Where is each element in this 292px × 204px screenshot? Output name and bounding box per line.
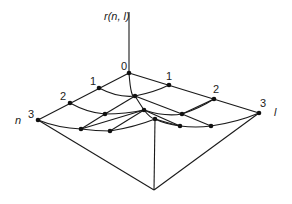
grid-line (182, 99, 214, 114)
n-tick-1: 1 (90, 75, 96, 87)
n-axis (38, 73, 129, 120)
lattice-diagram: r(n, l) 0 1 (0, 0, 292, 204)
grid-line (81, 114, 105, 129)
arc-n1 (99, 88, 135, 96)
l-tick-1: 1 (166, 70, 172, 82)
n-tick-2: 2 (60, 90, 66, 102)
arc-l1 (135, 85, 169, 96)
n-tick-3: 3 (28, 108, 34, 120)
n-tick-0: 0 (121, 60, 127, 72)
lattice-points (36, 71, 262, 134)
l-tick-2: 2 (213, 83, 219, 95)
l-axis-label: l (274, 106, 277, 118)
l-tick-3: 3 (260, 97, 266, 109)
grid-line (182, 114, 211, 126)
grid-line (105, 96, 135, 114)
n-axis-label: n (15, 114, 21, 126)
vertical-axis-label: r(n, l) (104, 10, 130, 22)
base-edge-center (154, 119, 155, 190)
arc-n3 (38, 119, 155, 131)
grid-line (144, 110, 180, 126)
